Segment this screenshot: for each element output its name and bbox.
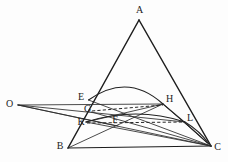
segment-chord-OC (18, 105, 211, 146)
label-point-A: A (136, 4, 144, 15)
label-point-C: C (214, 141, 221, 152)
label-point-F: F (112, 114, 118, 125)
segment-chord-KC (86, 122, 211, 146)
segment-side-BC (68, 146, 211, 148)
label-point-G: G (84, 103, 91, 114)
label-point-E: E (78, 91, 84, 102)
label-point-O: O (6, 98, 13, 109)
triangle-outline (68, 20, 211, 148)
geometry-figure: A B C O E G K F H L (0, 0, 228, 162)
label-point-B: B (57, 140, 64, 151)
label-point-H: H (166, 93, 173, 104)
label-point-K: K (77, 116, 85, 127)
point-labels: A B C O E G K F H L (6, 4, 221, 152)
segment-side-AC (139, 20, 211, 146)
label-point-L: L (187, 112, 193, 123)
segment-chord-OG (18, 105, 185, 122)
pencil-from-O (18, 104, 211, 146)
segment-chord-GH-dashed (92, 105, 163, 111)
figure-canvas: A B C O E G K F H L (0, 0, 228, 162)
